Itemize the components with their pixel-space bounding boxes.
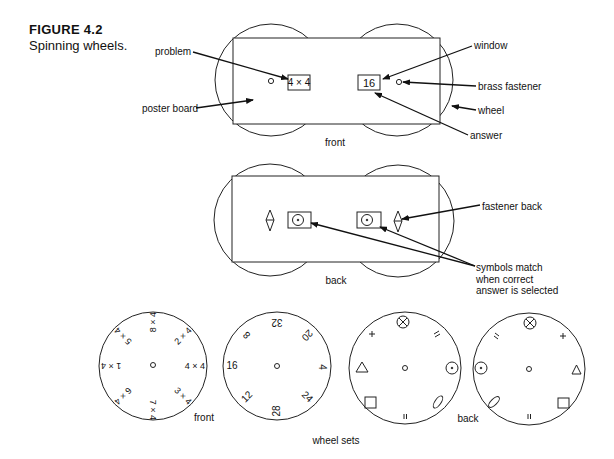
- problem-label: 8 × 4: [148, 312, 158, 332]
- wheel-sets-front-label: front: [194, 412, 214, 423]
- plus-icon: [560, 333, 566, 339]
- callout-symbols-line3: answer is selected: [476, 285, 558, 296]
- answer-label: 12: [239, 389, 255, 405]
- triangle-icon: [356, 362, 368, 372]
- back-symbol-wheel-1: [349, 312, 461, 424]
- problem-label: 1 × 4: [101, 361, 121, 371]
- circle-dot-icon: [446, 362, 458, 374]
- answer-label: 20: [299, 328, 315, 344]
- callout-symbols-line2: when correct: [475, 274, 533, 285]
- problem-wheel: 4 × 4 2 × 4 8 × 4 5 × 4 1 × 4 6 × 4 7 × …: [99, 312, 207, 420]
- answer-label: 24: [300, 389, 316, 405]
- callout-problem: problem: [155, 46, 191, 57]
- callout-brass-fastener: brass fastener: [478, 81, 542, 92]
- circle-x-icon: [524, 317, 536, 329]
- answer-label: 32: [271, 317, 283, 328]
- wheel-sets-back-label: back: [457, 413, 479, 424]
- double-bar-icon: [528, 414, 531, 419]
- back-symbol-wheel-2: [473, 313, 585, 425]
- circle-x-icon: [397, 316, 409, 328]
- problem-label: 3 × 4: [172, 385, 193, 406]
- double-slash-icon: [494, 333, 499, 339]
- front-view-label: front: [325, 137, 345, 148]
- callout-fastener-back: fastener back: [482, 201, 543, 212]
- back-poster-board: [232, 176, 439, 262]
- answer-window-text: 16: [363, 77, 375, 89]
- answer-label: 16: [226, 360, 238, 371]
- problem-label: 4 × 4: [185, 361, 205, 371]
- callout-wheel: wheel: [477, 105, 504, 116]
- callout-answer: answer: [470, 130, 503, 141]
- answer-label: 4: [317, 364, 328, 370]
- front-poster-board: [233, 38, 440, 124]
- callout-symbols-line1: symbols match: [476, 262, 543, 273]
- wheel-sets-label: wheel sets: [311, 435, 359, 446]
- answer-wheel: 4 20 32 8 16 12 28 24: [223, 312, 331, 420]
- answer-label: 28: [271, 405, 282, 417]
- circle-dot-icon: [475, 362, 487, 374]
- square-icon: [365, 397, 376, 408]
- callout-poster-board: poster board: [142, 103, 198, 114]
- ellipse-icon: [487, 395, 501, 409]
- plus-icon: [369, 331, 375, 337]
- spinning-wheels-diagram: 4 × 4 16 problem poster board window bra…: [0, 0, 614, 459]
- problem-label: 2 × 4: [172, 325, 193, 346]
- problem-label: 7 × 4: [148, 400, 158, 420]
- problem-label: 5 × 4: [112, 325, 133, 346]
- double-bar-icon: [404, 414, 407, 419]
- answer-label: 8: [240, 329, 252, 341]
- problem-label: 6 × 4: [112, 385, 133, 406]
- triangle-icon: [572, 365, 581, 374]
- back-view: [214, 164, 480, 277]
- double-slash-icon: [434, 331, 440, 337]
- back-view-label: back: [325, 275, 347, 286]
- square-icon: [558, 398, 569, 408]
- problem-window-text: 4 × 4: [288, 77, 311, 88]
- front-view: [193, 24, 476, 136]
- ellipse-icon: [432, 395, 445, 410]
- callout-window: window: [473, 40, 508, 51]
